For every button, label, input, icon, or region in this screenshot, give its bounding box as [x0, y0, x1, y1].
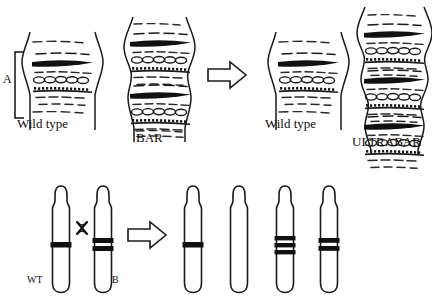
band — [319, 238, 340, 243]
top-dash-band — [279, 41, 329, 42]
label-b-parent: B — [112, 275, 119, 285]
band — [183, 242, 204, 248]
arrow-right-outline-icon-top — [208, 62, 246, 88]
bottom-dash-band — [33, 112, 83, 113]
bottom-dash-band — [279, 112, 329, 113]
band — [93, 246, 114, 251]
chromosome-product-1 — [183, 186, 204, 293]
chromosome-wt-parent — [51, 186, 72, 293]
label-wild-type-right: Wild type — [265, 117, 316, 130]
arrow-right-outline-icon-bottom — [128, 222, 166, 248]
segment-a-1 — [278, 53, 339, 105]
segment-a-2 — [364, 70, 425, 122]
label-ultrabar: ULTRABAR — [352, 135, 421, 148]
chromosome-product-3 — [275, 186, 296, 293]
segment-a-1 — [130, 33, 191, 85]
band — [275, 250, 296, 254]
label-wild-type-left: Wild type — [17, 117, 68, 130]
label-wt-parent: WT — [27, 275, 43, 285]
band — [93, 238, 114, 243]
top-dash-band — [33, 41, 83, 42]
label-bar: BAR — [136, 131, 163, 144]
polytene-bar — [124, 17, 195, 142]
band — [275, 243, 296, 247]
band — [319, 246, 340, 251]
chromosome-product-4 — [319, 186, 340, 293]
segment-a-1 — [32, 53, 93, 105]
top-dash-band — [368, 15, 415, 16]
band — [51, 242, 72, 248]
region-a-label: A — [3, 73, 12, 85]
bar-duplication-figure: A Wild type BAR Wild type ULTRABAR WT B — [0, 0, 432, 306]
crossover-icon — [77, 222, 87, 234]
band — [275, 236, 296, 240]
diagram-canvas — [0, 0, 432, 306]
chromosome-product-2 — [231, 186, 248, 293]
chromosome-b-parent — [93, 186, 114, 293]
segment-a-1 — [364, 24, 425, 76]
top-dash-band — [134, 24, 180, 25]
